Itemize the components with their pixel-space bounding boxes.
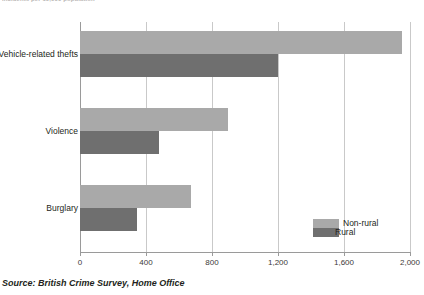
legend-label-rural: Rural: [335, 227, 355, 237]
x-tick-label: 1,600: [334, 258, 354, 267]
x-tick-mark: [278, 252, 279, 256]
x-axis-line: [80, 252, 411, 253]
x-tick-label: 1,200: [268, 258, 288, 267]
x-tick-mark: [344, 252, 345, 256]
x-tick-label: 0: [78, 258, 82, 267]
x-tick-mark: [146, 252, 147, 256]
bar: [80, 208, 137, 231]
legend: Non-rural Rural: [313, 219, 418, 237]
source-note: Source: British Crime Survey, Home Offic…: [2, 278, 185, 288]
category-label: Burglary: [46, 203, 78, 213]
category-label: Violence: [46, 126, 78, 136]
x-tick-mark: [80, 252, 81, 256]
bar: [80, 31, 402, 54]
category-label: Vehicle-related thefts: [0, 49, 78, 59]
bar-chart: Incidents per 10,000 population 04008001…: [0, 0, 424, 295]
x-tick-label: 2,000: [400, 258, 420, 267]
bar: [80, 131, 159, 154]
bar: [80, 54, 278, 77]
bar: [80, 108, 228, 131]
x-tick-mark: [212, 252, 213, 256]
gridline: [410, 22, 411, 252]
x-tick-label: 400: [139, 258, 152, 267]
bar: [80, 185, 191, 208]
legend-item-rural: Rural: [313, 228, 418, 237]
top-caption: Incidents per 10,000 population: [2, 0, 95, 3]
x-tick-label: 800: [205, 258, 218, 267]
gridline: [278, 22, 279, 252]
x-tick-mark: [410, 252, 411, 256]
legend-item-non-rural: Non-rural: [313, 219, 418, 228]
